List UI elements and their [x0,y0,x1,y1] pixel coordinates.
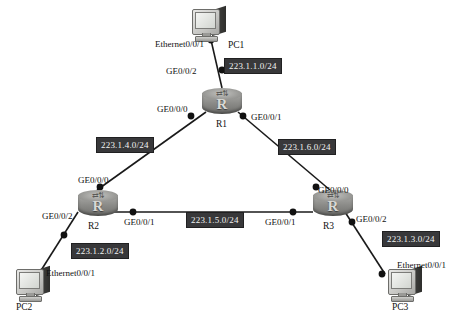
r1-ge000-label: GE0/0/0 [157,104,188,114]
r1-ge001-label: GE0/0/1 [251,112,282,122]
router-r2[interactable]: ⇄⇅R [78,190,118,220]
pc2-interface: Ethernet0/0/1 [46,268,95,278]
subnet-223-1-6: 223.1.6.0/24 [278,139,336,155]
r2-ge001-dot [130,209,137,216]
router-letter: R [202,97,242,112]
network-diagram-canvas: ⇄⇅R⇄⇅R⇄⇅R PC1R1R2R3PC2PC3Ethernet0/0/1GE… [0,0,460,320]
pc1-interface: Ethernet0/0/1 [155,39,204,49]
node-name-pc1: PC1 [228,40,244,50]
router-letter: R [313,199,353,214]
r3-ge001-dot [290,209,297,216]
node-name-r1: R1 [216,119,227,129]
monitor-screen [195,12,216,29]
subnet-223-1-5: 223.1.5.0/24 [186,212,244,228]
subnet-223-1-3: 223.1.3.0/24 [382,231,440,247]
monitor-screen [19,272,40,289]
pc-pc1[interactable] [190,6,232,42]
subnet-223-1-4: 223.1.4.0/24 [96,137,154,153]
link-r2-pc2 [40,212,78,272]
subnet-223-1-2: 223.1.2.0/24 [71,243,129,259]
pc3-interface: Ethernet0/0/1 [397,260,446,270]
link-pc1-r1 [211,40,222,88]
r2-ge000-label: GE0/0/0 [78,175,109,185]
r2-ge002-label: GE0/0/2 [42,211,73,221]
r1-ge002-label: GE0/0/2 [166,66,197,76]
monitor-screen [391,272,412,289]
node-name-pc2: PC2 [16,302,32,312]
r3-ge002-label: GE0/0/2 [356,214,387,224]
r2-ge001-label: GE0/0/1 [124,217,155,227]
r1-ge000-dot [188,113,195,120]
node-name-r3: R3 [323,221,334,231]
node-name-r2: R2 [88,221,99,231]
r3-ge000-label: GE0/0/0 [318,185,349,195]
router-r1[interactable]: ⇄⇅R [202,88,242,118]
pc-pc3[interactable] [386,266,428,302]
pc3-nic-dot [379,271,386,278]
r2-ge002-dot [61,232,68,239]
node-name-pc3: PC3 [392,302,408,312]
r3-ge001-label: GE0/0/1 [265,217,296,227]
router-letter: R [78,199,118,214]
subnet-223-1-1: 223.1.1.0/24 [224,58,282,74]
